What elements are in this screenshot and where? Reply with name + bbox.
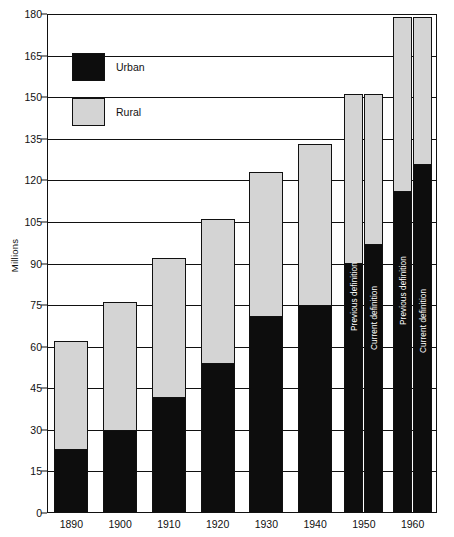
bar-segment-urban: [393, 191, 412, 513]
y-axis-tick-label: 165: [6, 50, 42, 62]
bar-segment-urban: [344, 263, 363, 513]
y-axis-tick-label: 120: [6, 174, 42, 186]
bar-segment-urban: [54, 449, 88, 513]
y-axis-tick-mark: [41, 55, 47, 56]
y-axis-tick-mark: [41, 305, 47, 306]
legend-label-urban: Urban: [116, 61, 145, 73]
y-axis-tick-label: 150: [6, 91, 42, 103]
y-axis-tick-mark: [41, 14, 47, 15]
bar-1950-current: Current definition: [364, 94, 383, 513]
legend-swatch-rural-icon: [72, 98, 105, 126]
y-axis-tick-mark: [41, 513, 47, 514]
legend-item-rural: Rural: [72, 98, 141, 126]
y-axis-tick-mark: [41, 471, 47, 472]
y-axis-tick-label: 30: [6, 424, 42, 436]
bar-1910: [152, 258, 186, 513]
y-axis-tick-mark: [41, 388, 47, 389]
y-axis-tick-label: 105: [6, 216, 42, 228]
y-axis-tick-label: 90: [6, 258, 42, 270]
bar-segment-urban: [298, 305, 332, 513]
y-axis-tick-label: 60: [6, 341, 42, 353]
bar-segment-urban: [201, 363, 235, 513]
y-axis-tick-label: 135: [6, 133, 42, 145]
bar-1900: [103, 302, 137, 513]
y-axis-tick-label: 0: [6, 507, 42, 519]
bar-segment-urban: [249, 316, 283, 513]
bar-1930: [249, 172, 283, 513]
y-axis-title: Millions: [9, 221, 20, 291]
legend-label-rural: Rural: [116, 106, 141, 118]
legend-item-urban: Urban: [72, 53, 145, 81]
legend-swatch-urban-icon: [72, 53, 105, 81]
y-axis-tick-mark: [41, 346, 47, 347]
y-axis-tick-mark: [41, 429, 47, 430]
y-axis-tick-label: 180: [6, 8, 42, 20]
y-axis-tick-mark: [41, 180, 47, 181]
y-axis-tick-mark: [41, 263, 47, 264]
y-axis-tick-mark: [41, 138, 47, 139]
bar-1920: [201, 219, 235, 513]
bar-1950-previous: Previous definition: [344, 94, 363, 513]
bar-segment-urban: [103, 430, 137, 513]
x-axis-tick-label: 1960: [383, 518, 443, 530]
bar-1890: [54, 341, 88, 513]
y-axis-tick-label: 75: [6, 299, 42, 311]
bar-segment-urban: [152, 397, 186, 513]
bar-segment-urban: [364, 244, 383, 513]
bar-segment-urban: [413, 164, 432, 513]
bar-1940: [298, 144, 332, 513]
y-axis-tick-label: 15: [6, 465, 42, 477]
bar-1960-previous: Previous definition: [393, 17, 412, 513]
population-urban-rural-chart: Millions 0153045607590105120135150165180…: [0, 0, 454, 537]
y-axis-tick-mark: [41, 97, 47, 98]
bar-1960-current: Current definition: [413, 17, 432, 513]
y-axis-tick-mark: [41, 221, 47, 222]
y-axis-tick-label: 45: [6, 382, 42, 394]
